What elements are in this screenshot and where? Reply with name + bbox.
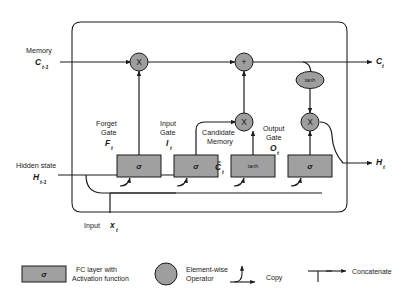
input-gate-name-line2: Gate [160,128,176,137]
label-hidden-output: H t [376,157,385,170]
legend-elementwise-line1: Element-wise [186,266,228,273]
hidden-state-input-label: Hidden state [16,161,56,170]
legend-concatenate-label: Concatenate [352,268,392,275]
input-gate-name-line1: Input [160,119,176,128]
output-gate-activation-glyph: σ [307,162,313,171]
legend-copy-label: Copy [266,274,283,282]
candidate-memory-subscript: t [222,169,224,175]
hidden-output-symbol: H [376,157,383,167]
concatenate-icon [308,271,346,282]
candidate-memory-name-line2: Memory [207,137,233,146]
output-multiply-glyph: X [307,117,313,127]
gate-box-candidate: tanh [231,155,275,177]
input-gate-subscript: t [170,145,172,151]
forget-gate-activation-glyph: σ [136,162,142,171]
candidate-memory-name-line1: Candidate [202,128,235,137]
label-memory-output: C t [376,56,384,69]
memory-input-symbol: C [35,57,42,67]
legend-item-elementwise: Element-wise Operator [155,263,228,285]
memory-input-subscript: t-1 [42,64,49,70]
input-x-label: Input [84,221,100,230]
hidden-state-input-symbol: H [33,172,40,182]
legend-elementwise-icon [155,263,177,285]
memory-tanh-glyph: tanh [305,77,316,83]
label-forget-gate: Forget Gate F t [96,119,117,151]
legend: σ FC layer with Activation function Elem… [22,263,392,285]
input-x-subscript: t [116,227,118,233]
forget-multiply-glyph: X [136,57,142,67]
memory-add-glyph: + [242,57,247,67]
operator-memory-tanh: tanh [296,72,324,89]
input-x-symbol: x [109,220,115,230]
lstm-diagram: X + X X tanh σ σ tanh σ Memory C t-1 [0,0,398,303]
gate-box-input: σ [174,155,218,177]
input-multiply-glyph: X [241,117,247,127]
legend-elementwise-line2: Operator [186,275,214,283]
operator-forget-multiply: X [130,53,148,71]
hidden-output-subscript: t [383,164,385,170]
copy-icon [230,266,255,282]
forget-gate-subscript: t [111,145,113,151]
label-output-gate: Output Gate O t [263,124,285,156]
gate-box-output: σ [288,155,332,177]
operator-output-multiply: X [301,113,319,131]
forget-gate-name-line1: Forget [96,119,117,128]
legend-fc-layer-glyph: σ [41,270,47,279]
output-gate-symbol: O [270,143,277,153]
gate-box-forget: σ [117,155,161,177]
legend-item-concatenate: Concatenate [308,268,392,282]
candidate-memory-activation-glyph: tanh [248,163,259,169]
hidden-state-input-subscript: t-1 [40,179,47,185]
input-gate-symbol: I [166,138,169,148]
label-memory-input: Memory C t-1 [26,46,52,70]
legend-fc-layer-line2: Activation function [72,275,129,282]
hidden-state-line [58,175,176,193]
gate-input-hooks [120,178,301,186]
legend-fc-layer-line1: FC layer with [76,266,117,274]
forget-gate-name-line2: Gate [101,128,117,137]
label-input-gate: Input Gate I t [160,119,176,151]
input-gate-activation-glyph: σ [193,162,199,171]
candidate-memory-symbol: C̃ [215,161,222,172]
label-hidden-state-input: Hidden state H t-1 [16,161,56,185]
legend-item-fc-layer: σ FC layer with Activation function [22,266,129,282]
memory-output-subscript: t [382,63,384,69]
label-input-x: Input x t [84,220,118,233]
output-gate-subscript: t [277,150,279,156]
input-line [110,193,322,213]
operator-memory-add: + [235,53,253,71]
operator-input-multiply: X [235,113,253,131]
legend-item-copy: Copy [230,266,283,282]
output-gate-name-line2: Gate [266,133,282,142]
output-gate-name-line1: Output [263,124,285,133]
memory-input-label: Memory [26,46,52,55]
